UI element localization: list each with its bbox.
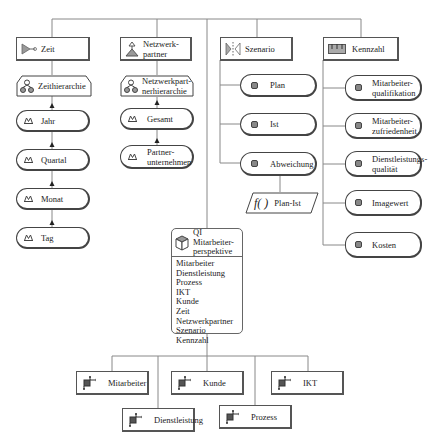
fact-dimension-dienstleistung[interactable]: Dienstleistung — [122, 408, 195, 432]
formula-label: Plan-Ist — [268, 198, 300, 208]
fact-dimension-prozess[interactable]: Prozess — [219, 405, 292, 429]
dimension-szenario[interactable]: Szenario — [220, 37, 293, 61]
fact-dimension-icon — [82, 376, 96, 390]
level-icon — [24, 195, 33, 202]
dimension-label: Zeit — [37, 44, 55, 54]
measure-label: Kosten — [362, 240, 396, 250]
hierarchy-zeithierarchie[interactable]: Zeithierarchie — [16, 75, 92, 97]
function-icon: f( ) — [254, 198, 268, 208]
element-abweichung[interactable]: Abweichung — [240, 152, 317, 176]
hierarchy-icon — [20, 79, 34, 93]
measure-label: Imagewert — [362, 198, 408, 208]
dimension-zeit[interactable]: Zeit — [16, 37, 90, 61]
measure-imagewert[interactable]: Imagewert — [345, 190, 422, 216]
cube-header: QI Mitarbeiter- perspektive — [172, 229, 242, 257]
element-icon — [355, 160, 362, 167]
fact-dimension-label: Kunde — [191, 378, 226, 388]
measure-label: Mitarbeiter- qualifikation — [362, 78, 415, 98]
element-icon — [355, 84, 362, 91]
element-label: Ist — [258, 119, 279, 129]
hierarchy-netzwerkpartnerhierarchie[interactable]: Netzwerkpart- nerhierarchie — [120, 75, 194, 97]
cube-qi-mitarbeiterperspektive[interactable]: QI Mitarbeiter- perspektive Mitarbeiter … — [171, 228, 243, 334]
fact-dimension-label: Dienstleistung — [142, 415, 203, 425]
label-line: Netzwerkpart- — [142, 76, 191, 86]
cube-icon — [175, 235, 189, 251]
level-monat[interactable]: Monat — [16, 188, 90, 210]
level-gesamt[interactable]: Gesamt — [120, 108, 194, 130]
dimension-label: Netzwerk- partner — [139, 39, 179, 59]
measure-icon — [328, 44, 346, 54]
element-icon — [355, 199, 362, 206]
cube-title: QI Mitarbeiter- perspektive — [189, 228, 239, 257]
element-label: Plan — [258, 80, 285, 90]
fact-dimension-icon — [128, 413, 142, 427]
title-line: QI Mitarbeiter- — [193, 228, 239, 247]
element-icon — [251, 160, 258, 167]
measure-dienstleistungsqualitaet[interactable]: Dienstleistungs- qualität — [345, 151, 422, 177]
element-icon — [355, 241, 362, 248]
fact-dimension-kunde[interactable]: Kunde — [171, 371, 244, 395]
dimension-netzwerkpartner[interactable]: Netzwerk- partner — [120, 37, 192, 61]
fact-dimension-icon — [225, 410, 239, 424]
measure-label: Dienstleistungs- qualität — [362, 154, 427, 174]
diagram-canvas: Zeit Zeithierarchie Jahr Quartal Monat T… — [0, 0, 438, 442]
fact-dimension-icon — [177, 376, 191, 390]
element-icon — [251, 82, 258, 89]
level-partnerunternehmen[interactable]: Partner- unternehmen — [120, 145, 194, 169]
level-icon — [24, 117, 33, 124]
level-label: Jahr — [33, 116, 55, 126]
element-plan[interactable]: Plan — [240, 74, 317, 97]
level-label: Partner- unternehmen — [137, 147, 191, 167]
dimension-label: Szenario — [241, 44, 275, 54]
measure-mitarbeiterqualifikation[interactable]: Mitarbeiter- qualifikation — [345, 75, 422, 101]
measure-kosten[interactable]: Kosten — [345, 232, 422, 258]
level-label: Tag — [33, 233, 54, 243]
element-ist[interactable]: Ist — [240, 113, 317, 136]
level-label: Quartal — [33, 155, 67, 165]
level-icon — [128, 153, 137, 160]
hierarchy-label: Zeithierarchie — [34, 81, 86, 91]
label-line: Netzwerk- — [143, 39, 179, 49]
title-line: perspektive — [193, 247, 239, 257]
fact-dimension-mitarbeiter[interactable]: Mitarbeiter — [76, 371, 149, 395]
dimension-kennzahl[interactable]: Kennzahl — [323, 37, 399, 61]
label-line: Partner- — [147, 147, 191, 157]
hierarchy-icon — [124, 79, 138, 93]
dimension-label: Kennzahl — [346, 44, 385, 54]
level-label: Monat — [33, 194, 63, 204]
level-icon — [128, 115, 137, 122]
element-label: Abweichung — [258, 159, 313, 169]
hierarchy-label: Netzwerkpart- nerhierarchie — [138, 76, 191, 96]
label-line: nerhierarchie — [142, 86, 191, 96]
fact-dimension-icon — [277, 376, 291, 390]
label-line: unternehmen — [147, 157, 191, 167]
level-quartal[interactable]: Quartal — [16, 149, 90, 171]
element-icon — [251, 121, 258, 128]
label-line: qualität — [372, 164, 427, 174]
fact-dimension-label: Prozess — [239, 412, 277, 422]
network-partner-icon — [125, 41, 139, 57]
fact-dimension-label: IKT — [291, 378, 317, 388]
level-jahr[interactable]: Jahr — [16, 110, 90, 132]
formula-plan-ist[interactable]: f( ) Plan-Ist — [245, 192, 319, 214]
level-icon — [24, 234, 33, 241]
label-line: qualifikation — [372, 88, 415, 98]
scenario-icon — [225, 42, 241, 56]
label-line: Dienstleistungs- — [372, 154, 427, 164]
dimension-icon — [21, 43, 37, 55]
label-line: partner — [143, 49, 179, 59]
fact-dimension-ikt[interactable]: IKT — [271, 371, 344, 395]
level-label: Gesamt — [137, 114, 173, 124]
label-line: Mitarbeiter- — [372, 116, 417, 126]
fact-dimension-label: Mitarbeiter — [96, 378, 146, 388]
measure-label: Mitarbeiter- zufriedenheit — [362, 116, 417, 136]
label-line: zufriedenheit — [372, 126, 417, 136]
level-tag[interactable]: Tag — [16, 227, 90, 249]
level-icon — [24, 156, 33, 163]
cube-dimension-list: Mitarbeiter Dienstleistung Prozess IKT K… — [172, 257, 242, 347]
cube-dimension-item: Kennzahl — [176, 336, 238, 346]
label-line: Mitarbeiter- — [372, 78, 415, 88]
element-icon — [355, 122, 362, 129]
measure-mitarbeiterzufriedenheit[interactable]: Mitarbeiter- zufriedenheit — [345, 113, 422, 139]
